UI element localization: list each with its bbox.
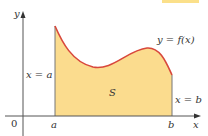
function-label: y = f(x) [156,34,195,45]
x-axis-arrow-icon [194,114,201,119]
origin-label: 0 [11,118,17,129]
area-diagram: y x 0 a b x = a x = b y = f(x) S [0,0,208,136]
right-bound-label: x = b [175,94,202,105]
top-tab [162,0,199,3]
x-axis-label: x [193,119,199,130]
y-axis-label: y [13,8,20,19]
region-s [55,26,172,116]
b-tick-label: b [168,119,174,130]
region-label: S [109,87,116,98]
y-axis-arrow-icon [21,11,26,18]
a-tick-label: a [51,119,57,130]
left-bound-label: x = a [26,69,52,80]
